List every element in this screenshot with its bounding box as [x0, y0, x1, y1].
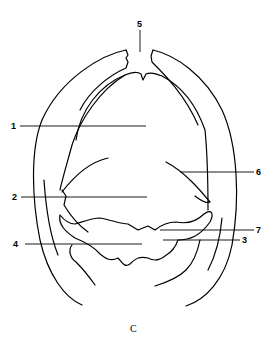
label-6: 6 — [256, 167, 261, 177]
label-5: 5 — [137, 19, 142, 29]
outer-shell-right-tip — [151, 50, 198, 125]
lower-right-wing — [155, 240, 200, 286]
middle-bone-left — [62, 190, 88, 232]
structure-6 — [166, 162, 210, 203]
outer-shell-right — [153, 50, 237, 306]
label-3: 3 — [242, 235, 247, 245]
inner-dome — [76, 73, 208, 210]
lower-left-wing — [70, 245, 95, 285]
figure-caption: C — [130, 323, 137, 334]
anatomical-diagram: 1 2 3 4 5 6 7 C — [0, 0, 269, 339]
middle-bone-arc — [62, 158, 108, 192]
label-1: 1 — [11, 121, 16, 131]
label-7: 7 — [256, 225, 261, 235]
outer-shell-left-tip — [80, 50, 128, 110]
label-2: 2 — [12, 192, 17, 202]
lower-complex — [60, 212, 212, 266]
label-4: 4 — [13, 239, 18, 249]
right-side-line — [208, 218, 222, 270]
